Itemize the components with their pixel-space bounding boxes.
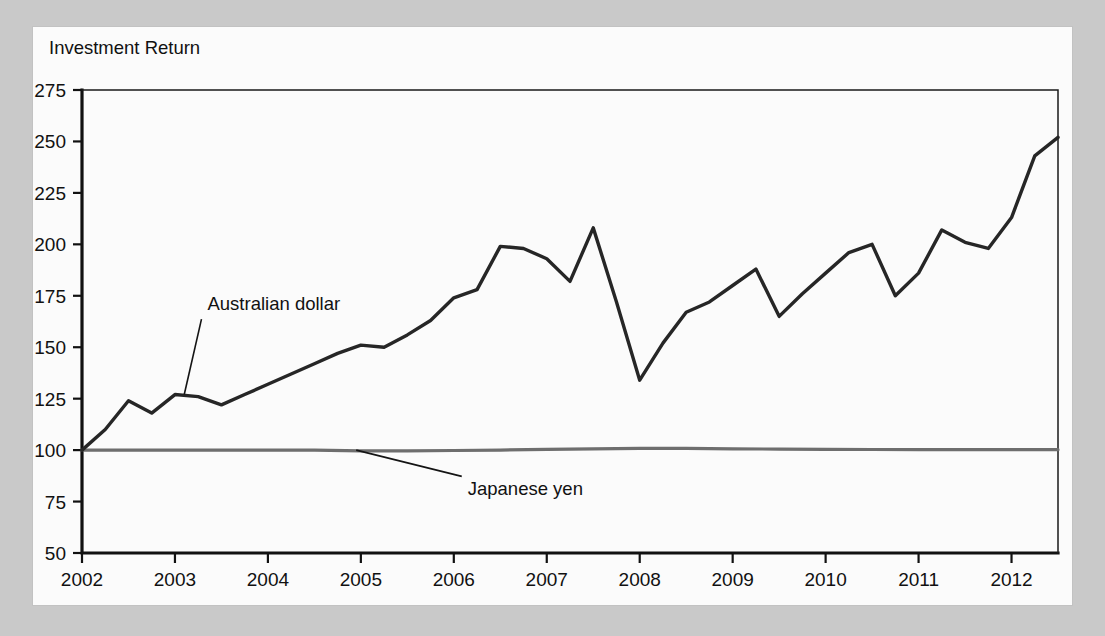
y-tick-label: 50 — [45, 543, 66, 564]
page-root: Investment Return 5075100125150175200225… — [0, 0, 1105, 636]
y-tick-label: 250 — [34, 131, 66, 152]
chart-y-axis-title: Investment Return — [49, 37, 200, 58]
y-tick-label: 175 — [34, 286, 66, 307]
chart-y-tick-labels: 5075100125150175200225250275 — [34, 80, 66, 564]
y-tick-label: 275 — [34, 80, 66, 101]
x-tick-label: 2006 — [433, 569, 475, 590]
annotation-label: Australian dollar — [207, 293, 340, 314]
annotation-leader-line — [356, 450, 462, 476]
y-tick-label: 100 — [34, 440, 66, 461]
y-tick-label: 125 — [34, 389, 66, 410]
investment-return-line-chart: Investment Return 5075100125150175200225… — [33, 27, 1072, 605]
x-tick-label: 2004 — [247, 569, 290, 590]
chart-x-tick-labels: 2002200320042005200620072008200920102011… — [61, 569, 1033, 590]
x-tick-label: 2007 — [526, 569, 568, 590]
y-tick-label: 225 — [34, 183, 66, 204]
annotation-leader-line — [184, 319, 201, 394]
x-tick-label: 2011 — [898, 569, 939, 590]
x-tick-label: 2003 — [154, 569, 196, 590]
x-tick-label: 2008 — [619, 569, 661, 590]
x-tick-label: 2009 — [712, 569, 754, 590]
x-tick-label: 2012 — [990, 569, 1032, 590]
figure-panel: Investment Return 5075100125150175200225… — [33, 27, 1072, 605]
x-tick-label: 2002 — [61, 569, 103, 590]
y-tick-label: 75 — [45, 492, 66, 513]
y-tick-label: 150 — [34, 337, 66, 358]
x-tick-label: 2010 — [804, 569, 846, 590]
series-line-japanese-yen — [82, 448, 1058, 450]
annotation-label: Japanese yen — [468, 478, 583, 499]
y-tick-label: 200 — [34, 234, 66, 255]
x-tick-label: 2005 — [340, 569, 382, 590]
